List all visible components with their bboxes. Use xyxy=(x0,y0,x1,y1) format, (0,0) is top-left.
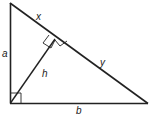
label-b: b xyxy=(76,105,82,116)
label-h: h xyxy=(42,68,48,79)
label-x: x xyxy=(35,11,42,22)
hypotenuse xyxy=(10,3,148,104)
right-triangle-diagram: x y a h b xyxy=(0,0,149,117)
label-y: y xyxy=(99,57,106,68)
label-a: a xyxy=(2,48,8,59)
